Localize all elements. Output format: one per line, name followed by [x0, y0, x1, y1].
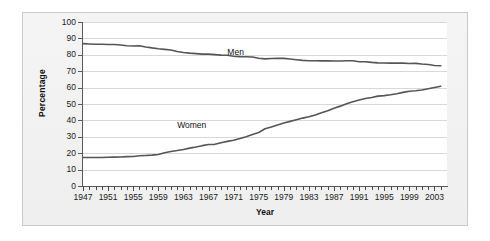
series-line-women: [83, 86, 441, 157]
x-tick-mark: [114, 186, 115, 190]
x-tick-mark: [102, 186, 103, 190]
y-tick-label: 0: [50, 182, 76, 190]
x-tick-mark: [315, 186, 316, 190]
x-tick-mark: [321, 186, 322, 190]
x-tick-mark: [278, 186, 279, 190]
x-tick-mark: [158, 186, 159, 191]
x-tick-mark: [296, 186, 297, 190]
y-tick-mark: [78, 104, 82, 105]
y-tick-label: 80: [50, 50, 76, 58]
y-tick-mark: [78, 137, 82, 138]
x-tick-mark: [359, 186, 360, 191]
y-tick-mark: [78, 153, 82, 154]
x-tick-mark: [240, 186, 241, 190]
x-tick-mark: [416, 186, 417, 190]
x-tick-mark: [303, 186, 304, 190]
x-tick-mark: [177, 186, 178, 190]
x-tick-mark: [378, 186, 379, 190]
y-tick-label: 30: [50, 132, 76, 140]
x-tick-mark: [83, 186, 84, 191]
y-tick-label: 90: [50, 34, 76, 42]
x-tick-mark: [108, 186, 109, 191]
x-tick-mark: [391, 186, 392, 190]
series-label-men: Men: [227, 47, 244, 57]
x-tick-mark: [384, 186, 385, 191]
x-tick-mark: [403, 186, 404, 190]
x-tick-mark: [227, 186, 228, 190]
y-tick-mark: [78, 120, 82, 121]
x-tick-mark: [422, 186, 423, 190]
y-tick-mark: [78, 38, 82, 39]
x-tick-mark: [246, 186, 247, 190]
x-tick-mark: [127, 186, 128, 190]
y-tick-mark: [78, 71, 82, 72]
y-tick-mark: [78, 55, 82, 56]
y-tick-label: 60: [50, 83, 76, 91]
x-tick-mark: [353, 186, 354, 190]
x-tick-mark: [146, 186, 147, 190]
x-tick-mark: [334, 186, 335, 191]
x-tick-mark: [139, 186, 140, 190]
y-tick-label: 50: [50, 100, 76, 108]
x-tick-mark: [133, 186, 134, 191]
x-tick-mark: [434, 186, 435, 191]
x-tick-mark: [171, 186, 172, 190]
x-tick-mark: [265, 186, 266, 190]
y-tick-label: 20: [50, 149, 76, 157]
x-tick-mark: [347, 186, 348, 190]
x-tick-mark: [196, 186, 197, 190]
x-tick-mark: [165, 186, 166, 190]
x-tick-mark: [428, 186, 429, 190]
x-tick-mark: [259, 186, 260, 191]
x-tick-mark: [152, 186, 153, 190]
x-tick-mark: [290, 186, 291, 190]
x-tick-mark: [183, 186, 184, 191]
x-tick-mark: [221, 186, 222, 190]
x-tick-mark: [309, 186, 310, 191]
x-tick-mark: [89, 186, 90, 190]
x-tick-mark: [202, 186, 203, 190]
y-tick-mark: [78, 170, 82, 171]
y-tick-label: 70: [50, 67, 76, 75]
y-axis-title: Percentage: [37, 33, 47, 153]
x-tick-mark: [121, 186, 122, 190]
series-label-women: Women: [177, 120, 206, 130]
chart-screenshot: 1009080706050403020100 Percentage 194719…: [0, 0, 490, 241]
x-tick-mark: [372, 186, 373, 190]
x-tick-mark: [284, 186, 285, 191]
x-tick-mark: [96, 186, 97, 190]
y-tick-mark: [78, 88, 82, 89]
x-tick-label: 2003: [417, 193, 451, 202]
series-line-men: [83, 44, 441, 66]
series-lines: [83, 22, 447, 186]
x-tick-mark: [397, 186, 398, 190]
x-tick-mark: [252, 186, 253, 190]
x-tick-mark: [190, 186, 191, 190]
y-tick-label: 100: [50, 18, 76, 26]
x-tick-mark: [234, 186, 235, 191]
x-tick-mark: [409, 186, 410, 191]
x-tick-mark: [340, 186, 341, 190]
y-tick-mark: [78, 186, 82, 187]
x-tick-mark: [215, 186, 216, 190]
y-tick-label: 40: [50, 116, 76, 124]
x-tick-mark: [328, 186, 329, 190]
x-tick-mark: [365, 186, 366, 190]
x-axis-title: Year: [83, 207, 447, 217]
x-tick-mark: [441, 186, 442, 190]
x-tick-mark: [209, 186, 210, 191]
x-tick-mark: [271, 186, 272, 190]
y-tick-mark: [78, 22, 82, 23]
y-tick-label: 10: [50, 165, 76, 173]
